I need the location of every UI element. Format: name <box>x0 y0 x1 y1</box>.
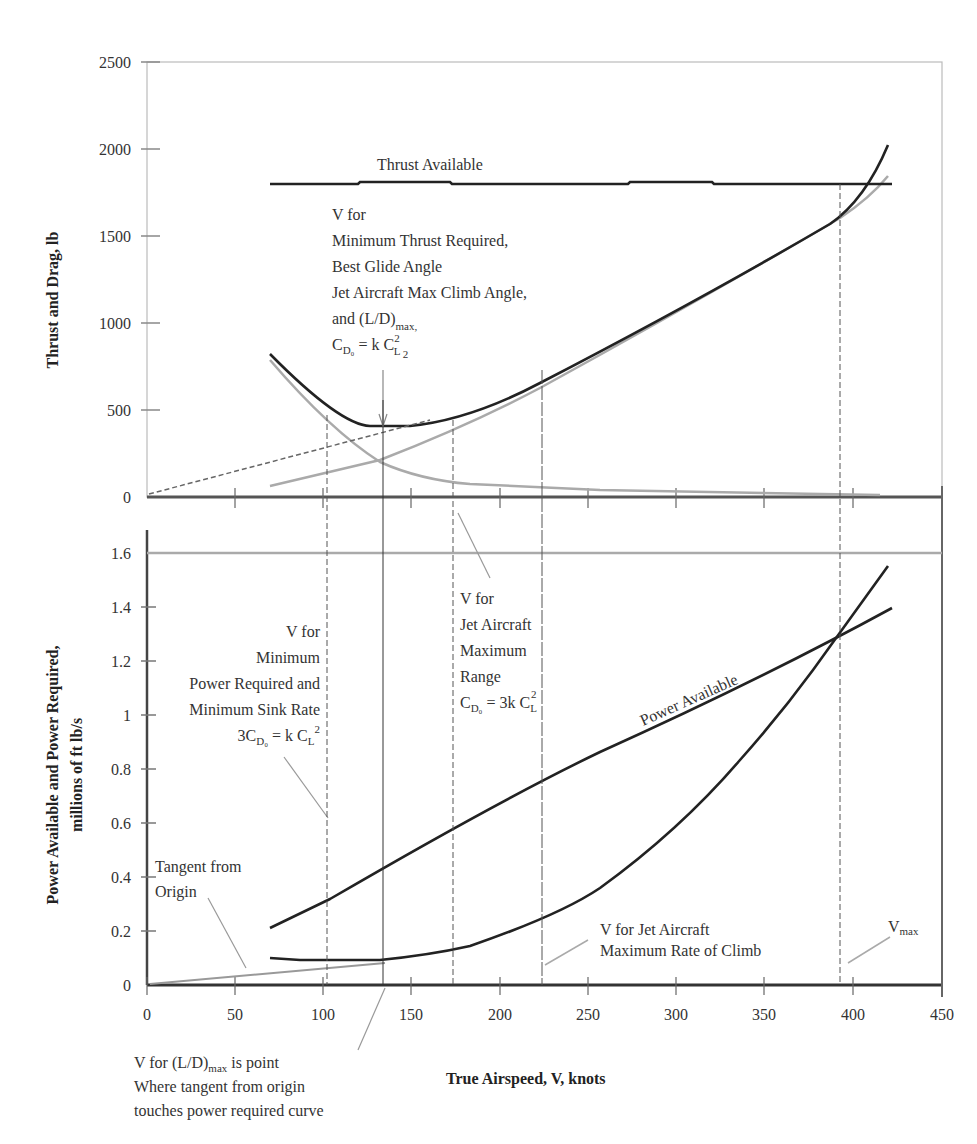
min-thrust-annotation: V for Minimum Thrust Required, Best Glid… <box>332 206 527 360</box>
bottom-y-tick-labels: 1.6 1.4 1.2 1 0.8 0.6 0.4 0.2 0 <box>111 545 131 994</box>
svg-text:Minimum Sink Rate: Minimum Sink Rate <box>189 701 320 718</box>
svg-text:V for: V for <box>332 206 367 223</box>
svg-text:Jet Aircraft Max Climb Angle,: Jet Aircraft Max Climb Angle, <box>332 284 527 302</box>
performance-chart: 2500 2000 1500 1000 500 0 <box>0 0 977 1144</box>
svg-text:0: 0 <box>143 1006 151 1023</box>
svg-text:CD₀ = k C2L 2: CD₀ = k C2L 2 <box>332 332 408 360</box>
max-roc-annotation: V for Jet Aircraft Maximum Rate of Climb <box>600 921 761 959</box>
vmax-label: Vmax <box>888 918 919 937</box>
svg-text:Where tangent from origin: Where tangent from origin <box>134 1078 305 1096</box>
svg-text:V for (L/D)max is point: V for (L/D)max is point <box>134 1054 279 1074</box>
svg-text:V for: V for <box>460 590 495 607</box>
svg-text:1500: 1500 <box>99 228 131 245</box>
svg-text:Best Glide Angle: Best Glide Angle <box>332 258 442 276</box>
svg-text:Origin: Origin <box>155 883 197 901</box>
svg-text:300: 300 <box>664 1006 688 1023</box>
ld-max-annotation: V for (L/D)max is point Where tangent fr… <box>134 1054 324 1120</box>
svg-text:50: 50 <box>227 1006 243 1023</box>
svg-text:150: 150 <box>399 1006 423 1023</box>
svg-text:Jet Aircraft: Jet Aircraft <box>460 616 532 633</box>
svg-text:1: 1 <box>123 707 131 724</box>
svg-text:200: 200 <box>488 1006 512 1023</box>
svg-text:and (L/D)max,: and (L/D)max, <box>332 310 417 332</box>
thrust-available-label: Thrust Available <box>377 156 483 173</box>
svg-text:Power Required and: Power Required and <box>189 675 320 693</box>
vmax-arrow <box>848 937 890 963</box>
svg-text:500: 500 <box>107 402 131 419</box>
power-available-label: Power Available <box>637 670 740 728</box>
bottom-chart: 1.6 1.4 1.2 1 0.8 0.6 0.4 0.2 0 0 50 100 <box>111 497 954 1023</box>
bottom-tangent-line <box>150 963 385 984</box>
svg-text:Minimum Thrust Required,: Minimum Thrust Required, <box>332 232 508 250</box>
min-power-arrow <box>284 757 328 818</box>
svg-text:Minimum: Minimum <box>256 649 321 666</box>
svg-text:3CD₀ = k CL2: 3CD₀ = k CL2 <box>238 723 320 747</box>
thrust-available-line <box>270 182 892 184</box>
max-roc-arrow <box>545 940 588 965</box>
svg-text:1.2: 1.2 <box>111 653 131 670</box>
svg-text:100: 100 <box>311 1006 335 1023</box>
svg-text:0.8: 0.8 <box>111 761 131 778</box>
x-axis-title: True Airspeed, V, knots <box>446 1070 606 1088</box>
tangent-arrow <box>208 898 246 968</box>
top-plot-frame <box>147 62 942 497</box>
bottom-y-axis-title-line1: Power Available and Power Required, <box>44 646 62 905</box>
svg-text:250: 250 <box>576 1006 600 1023</box>
top-chart: 2500 2000 1500 1000 500 0 <box>99 54 942 510</box>
svg-text:V for Jet Aircraft: V for Jet Aircraft <box>600 921 710 938</box>
svg-text:0: 0 <box>123 977 131 994</box>
svg-text:400: 400 <box>841 1006 865 1023</box>
svg-text:Maximum Rate of Climb: Maximum Rate of Climb <box>600 942 761 959</box>
top-y-tick-labels: 2500 2000 1500 1000 500 0 <box>99 54 131 506</box>
svg-text:2500: 2500 <box>99 54 131 71</box>
min-power-annotation: V for Minimum Power Required and Minimum… <box>189 623 320 747</box>
tangent-annotation: Tangent from Origin <box>155 858 242 901</box>
bottom-y-axis-title-line2: millions of ft lb/s <box>68 718 85 832</box>
svg-text:1.6: 1.6 <box>111 545 131 562</box>
svg-text:450: 450 <box>930 1006 954 1023</box>
induced-drag-curve <box>270 360 880 495</box>
svg-text:1000: 1000 <box>99 315 131 332</box>
svg-text:CD₀ = 3k CL2: CD₀ = 3k CL2 <box>460 688 537 714</box>
svg-text:1.4: 1.4 <box>111 599 131 616</box>
svg-text:0.6: 0.6 <box>111 815 131 832</box>
svg-text:2000: 2000 <box>99 141 131 158</box>
bottom-y-ticks <box>141 607 156 931</box>
reference-vlines <box>327 184 840 985</box>
svg-text:touches power required curve: touches power required curve <box>134 1102 324 1120</box>
svg-text:Maximum: Maximum <box>460 642 527 659</box>
svg-text:V for: V for <box>286 623 321 640</box>
top-y-ticks <box>141 62 160 410</box>
x-tick-labels: 0 50 100 150 200 250 300 350 400 450 <box>143 1006 954 1023</box>
top-y-axis-title: Thrust and Drag, lb <box>44 231 62 368</box>
max-range-annotation: V for Jet Aircraft Maximum Range CD₀ = 3… <box>460 590 537 714</box>
svg-text:Tangent from: Tangent from <box>155 858 242 876</box>
svg-text:Range: Range <box>460 668 501 686</box>
svg-text:0.4: 0.4 <box>111 869 131 886</box>
svg-text:350: 350 <box>752 1006 776 1023</box>
svg-text:0.2: 0.2 <box>111 923 131 940</box>
svg-text:0: 0 <box>123 489 131 506</box>
ld-max-arrow <box>358 988 385 1050</box>
power-available-line <box>270 608 892 928</box>
max-range-arrow <box>458 513 490 578</box>
